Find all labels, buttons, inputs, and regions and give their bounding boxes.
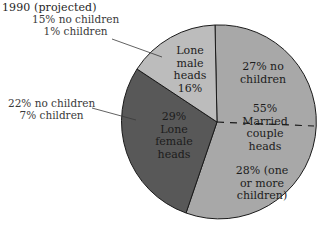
married-percent: 55% — [237, 103, 293, 116]
external-label-lone-female: 22% no children 7% children — [8, 97, 95, 121]
label-married-couple: 55% Married couple heads — [237, 103, 293, 153]
label-lone-male: Lone male heads 16% — [168, 45, 212, 95]
lone-male-label-line: heads — [168, 70, 212, 83]
married-no-children-percent: 27% no — [228, 61, 298, 74]
married-label-line: heads — [237, 141, 293, 154]
label-lone-female: 29% Lone female heads — [150, 111, 198, 161]
lone-female-percent: 29% — [150, 111, 198, 124]
married-children-text: children) — [230, 190, 294, 203]
lone-male-percent: 16% — [168, 83, 212, 96]
lone-female-children-text: 7% children — [8, 109, 95, 121]
label-married-no-children: 27% no children — [228, 61, 298, 86]
lone-female-label-line: female — [150, 136, 198, 149]
lone-female-label-line: heads — [150, 149, 198, 162]
lone-male-children-text: 1% children — [32, 25, 119, 37]
lone-male-no-children-text: 15% no children — [32, 13, 119, 25]
label-married-children: 28% (one or more children) — [230, 165, 294, 203]
lone-male-label-line: Lone — [168, 45, 212, 58]
married-label-line: couple — [237, 128, 293, 141]
leader-line-lone-male — [112, 39, 162, 57]
lone-female-no-children-text: 22% no children — [8, 97, 95, 109]
married-no-children-text: children — [228, 74, 298, 87]
external-label-lone-male: 15% no children 1% children — [32, 13, 119, 37]
married-children-percent: 28% (one — [230, 165, 294, 178]
